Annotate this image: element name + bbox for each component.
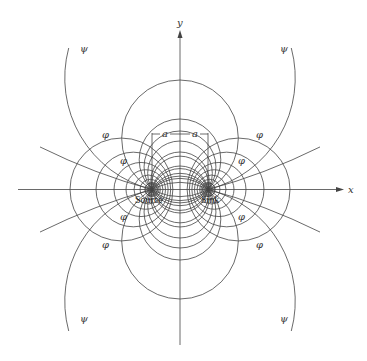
sink-label: Sink [201,194,219,205]
a-label-right: a [192,128,198,139]
outer-streamline-arc [65,48,152,190]
y-axis-label: y [176,17,183,28]
phi-label: φ [102,239,109,250]
outer-streamline-arc [208,48,295,190]
flow-net-diagram: x y a a Source Sink ψψψψ φφφφφφφφ [0,0,367,361]
y-axis-arrow-icon [178,30,183,38]
psi-label: ψ [280,313,288,324]
x-axis-label: x [348,184,354,195]
phi-label: φ [238,155,245,166]
phi-label: φ [256,129,263,140]
psi-label: ψ [80,43,88,54]
outer-streamline-arc [65,190,152,332]
psi-labels: ψψψψ [80,43,288,324]
outer-streamline-arc [208,190,295,332]
source-label: Source [135,194,163,205]
axes: x y [18,17,354,345]
psi-label: ψ [280,43,288,54]
phi-label: φ [120,211,127,222]
phi-label: φ [238,211,245,222]
phi-label: φ [120,155,127,166]
a-label-left: a [162,128,168,139]
psi-label: ψ [80,313,88,324]
phi-label: φ [256,239,263,250]
x-axis-arrow-icon [336,187,344,192]
phi-label: φ [102,129,109,140]
